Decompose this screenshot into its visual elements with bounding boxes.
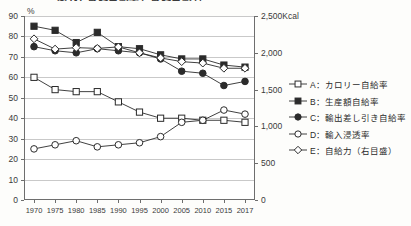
legend-marker-open-square-icon [288,78,308,90]
data-point-D [52,142,59,149]
left-axis-tick-label: 10 [0,175,18,185]
x-axis-tick [224,200,225,203]
x-axis-tick-label: 1990 [110,206,127,215]
data-point-D [157,133,164,140]
x-axis-tick [245,200,246,203]
x-axis-tick [97,200,98,203]
x-axis-tick-label: 1970 [26,206,43,215]
left-axis-tick-label: 90 [0,11,18,21]
data-point-A [31,74,37,80]
data-point-E [30,35,38,43]
right-axis-tick [255,90,258,91]
data-point-A [52,87,58,93]
right-axis-tick [255,16,258,17]
series-A [31,74,248,125]
right-axis-tick [255,163,258,164]
right-axis-tick [255,126,258,127]
data-point-A [94,89,100,95]
plot-area [24,16,255,200]
legend-item-4[interactable]: D：輸入浸透率 [288,126,411,143]
data-point-C [178,68,185,75]
data-point-A [242,119,248,125]
legend-marker-filled-square-icon [288,95,308,107]
data-point-D [31,146,38,153]
data-point-C [200,70,207,77]
right-axis-tick-label: 0 [261,195,266,205]
left-axis-tick-label: 60 [0,72,18,82]
legend-item-3[interactable]: C：輸出差し引き自給率 [288,109,411,126]
right-axis-tick-label: 2,000 [261,48,282,58]
legend-item-1[interactable]: A：カロリー自給率 [288,76,411,93]
left-axis-unit-label: % [27,6,35,16]
x-axis-tick [203,200,204,203]
series-E [30,35,249,72]
data-point-A [73,89,79,95]
data-point-C [242,78,249,85]
series-B [31,23,248,70]
chart-title: 図1-1 食料自給率と食料自給力 [0,0,260,1]
data-point-B [52,27,58,33]
x-axis-tick [55,200,56,203]
data-point-A [221,117,227,123]
left-axis-tick-label: 0 [0,195,18,205]
data-point-D [178,119,185,126]
data-point-A [158,115,164,121]
legend-marker-open-diamond-icon [288,144,308,156]
x-axis-tick [118,200,119,203]
x-axis-tick-label: 2015 [216,206,233,215]
legend-item-2[interactable]: B：生産額自給率 [288,93,411,110]
data-point-D [94,144,101,151]
legend-label: C：輸出差し引き自給率 [310,111,406,123]
x-axis-tick-label: 1975 [47,206,64,215]
legend-label: D：輸入浸透率 [310,128,370,140]
data-point-D [115,142,122,149]
x-axis-tick [34,200,35,203]
left-axis-tick-label: 80 [0,31,18,41]
data-point-D [242,111,249,118]
x-axis-tick-label: 1985 [89,206,106,215]
x-axis-tick [182,200,183,203]
legend-item-5[interactable]: E：自給力（右目盛） [288,142,411,159]
left-axis-tick [21,200,24,201]
data-point-D [221,107,228,114]
left-axis-tick-label: 20 [0,154,18,164]
left-axis-tick-label: 70 [0,52,18,62]
x-axis-tick-label: 2005 [173,206,190,215]
legend-label: E：自給力（右目盛） [310,144,397,156]
left-axis-tick-label: 40 [0,113,18,123]
left-axis-tick-label: 30 [0,134,18,144]
legend-marker-open-circle-icon [288,128,308,140]
data-point-B [94,29,100,35]
right-axis-tick [255,200,258,201]
data-point-D [73,137,80,144]
data-point-D [200,117,207,124]
legend-label: B：生産額自給率 [310,95,379,107]
right-axis-tick-label: 1,000 [261,121,282,131]
x-axis-tick [140,200,141,203]
right-axis-tick-label: 2,500Kcal [261,11,299,21]
chart-figure: 図1-1 食料自給率と食料自給力 % 0102030405060708090 0… [0,0,411,226]
right-axis-tick [255,53,258,54]
left-axis-tick-label: 50 [0,93,18,103]
data-point-B [31,23,37,29]
x-axis-tick-label: 2017 [237,206,254,215]
x-axis-tick [76,200,77,203]
right-axis-tick-label: 1,500 [261,85,282,95]
data-point-C [221,82,228,89]
legend-label: A：カロリー自給率 [310,78,388,90]
legend-marker-filled-circle-icon [288,111,308,123]
x-axis-tick-label: 2000 [152,206,169,215]
data-point-A [136,109,142,115]
data-point-D [136,139,143,146]
right-axis-tick-label: 500 [261,158,275,168]
x-axis-tick-label: 2010 [194,206,211,215]
data-point-A [115,99,121,105]
x-axis-tick [161,200,162,203]
data-point-C [31,43,38,50]
x-axis-tick-label: 1995 [131,206,148,215]
chart-legend: A：カロリー自給率B：生産額自給率C：輸出差し引き自給率D：輸入浸透率E：自給力… [288,76,411,159]
x-axis-tick-label: 1980 [68,206,85,215]
series-layer [24,16,255,200]
